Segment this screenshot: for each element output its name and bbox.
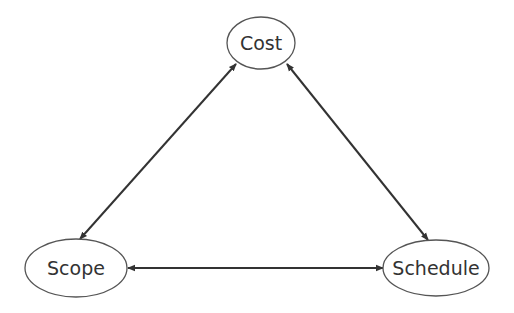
triple-constraint-diagram: Cost Scope Schedule [0,0,514,313]
nodes-group: Cost Scope Schedule [25,17,489,297]
node-schedule: Schedule [383,240,489,296]
node-cost: Cost [227,17,295,69]
node-cost-label: Cost [240,32,282,54]
node-schedule-label: Schedule [392,257,479,279]
edge-cost-scope [80,64,236,239]
edges-group [80,64,428,268]
node-scope: Scope [25,239,127,297]
node-scope-label: Scope [47,257,105,279]
edge-cost-schedule [287,64,428,240]
